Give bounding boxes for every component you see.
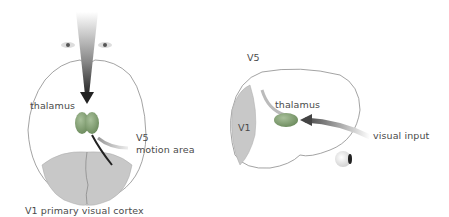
label-v5-top: V5	[136, 132, 149, 143]
side-view-brain	[231, 69, 370, 168]
label-motion-area: motion area	[136, 144, 195, 155]
caption-v1-primary: V1 primary visual cortex	[25, 205, 144, 216]
label-thalamus-side: thalamus	[275, 99, 320, 110]
thalamus-side	[274, 113, 298, 127]
v1-cortex-top	[42, 152, 132, 206]
label-v5-side: V5	[247, 52, 260, 63]
thalamus-right-lobe	[85, 112, 99, 134]
label-thalamus-top: thalamus	[30, 100, 75, 111]
label-visual-input: visual input	[373, 130, 429, 141]
label-v1-side: V1	[238, 122, 251, 133]
